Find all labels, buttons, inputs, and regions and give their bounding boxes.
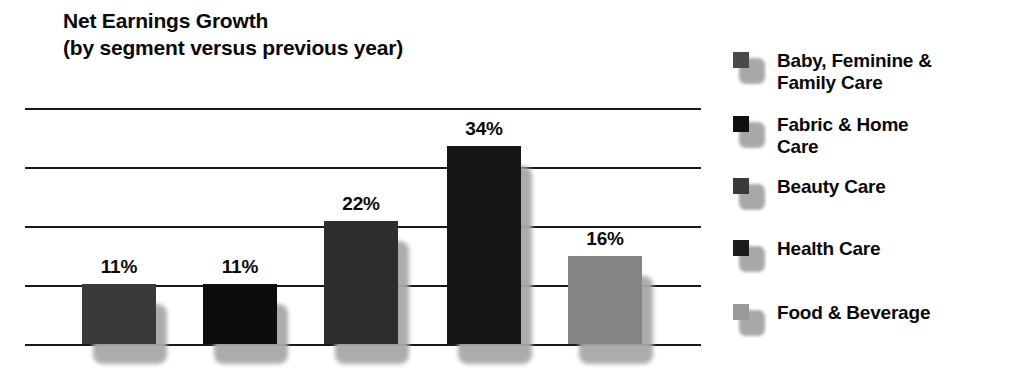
legend-label-line: Food & Beverage — [777, 302, 930, 324]
bar[interactable] — [203, 284, 277, 344]
bar[interactable] — [568, 256, 642, 344]
legend-item[interactable]: Food & Beverage — [733, 302, 1032, 336]
legend-label: Beauty Care — [777, 176, 886, 198]
legend-label-line: Care — [777, 136, 909, 158]
bar-value-label: 11% — [187, 256, 293, 278]
legend-swatch-chip — [733, 240, 749, 256]
legend-swatch-chip — [733, 304, 749, 320]
legend-label-line: Health Care — [777, 238, 880, 260]
legend-label: Baby, Feminine &Family Care — [777, 50, 932, 94]
legend-swatch-chip — [733, 116, 749, 132]
bar[interactable] — [82, 284, 156, 344]
legend-label: Food & Beverage — [777, 302, 930, 324]
legend-swatch-icon — [733, 178, 765, 210]
page-title: Net Earnings Growth — [63, 8, 683, 34]
legend-item[interactable]: Beauty Care — [733, 176, 1032, 210]
bar-value-label: 34% — [431, 118, 537, 140]
legend-label-line: Baby, Feminine & — [777, 50, 932, 72]
legend-swatch-chip — [733, 52, 749, 68]
bar-value-label: 16% — [552, 228, 658, 250]
plot-area: 11%11%22%34%16% — [25, 100, 701, 368]
chart-subtitle: (by segment versus previous year) — [63, 34, 683, 61]
bar[interactable] — [324, 221, 398, 344]
legend-label: Fabric & HomeCare — [777, 114, 909, 158]
chart-title-block: Net Earnings Growth (by segment versus p… — [63, 8, 683, 61]
legend-label-line: Fabric & Home — [777, 114, 909, 136]
bar-value-label: 11% — [66, 256, 172, 278]
legend-swatch-icon — [733, 240, 765, 272]
legend-item[interactable]: Fabric & HomeCare — [733, 114, 1032, 158]
chart-page: Net Earnings Growth (by segment versus p… — [0, 0, 1032, 380]
legend-item[interactable]: Health Care — [733, 238, 1032, 272]
bars-layer: 11%11%22%34%16% — [25, 100, 701, 368]
bar-value-label: 22% — [308, 193, 414, 215]
legend-label-line: Family Care — [777, 72, 932, 94]
legend-label: Health Care — [777, 238, 880, 260]
legend-swatch-icon — [733, 304, 765, 336]
chart-legend: Baby, Feminine &Family CareFabric & Home… — [733, 50, 1032, 370]
legend-swatch-icon — [733, 52, 765, 84]
bar[interactable] — [447, 146, 521, 344]
legend-item[interactable]: Baby, Feminine &Family Care — [733, 50, 1032, 94]
legend-swatch-icon — [733, 116, 765, 148]
legend-swatch-chip — [733, 178, 749, 194]
legend-label-line: Beauty Care — [777, 176, 886, 198]
